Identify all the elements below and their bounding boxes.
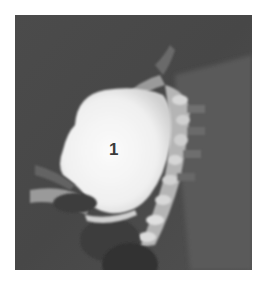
page: 1 bbox=[0, 0, 265, 282]
annotation-label: 1 bbox=[109, 141, 118, 158]
scan-graphics bbox=[15, 15, 252, 270]
mri-scan-image: 1 bbox=[15, 15, 252, 270]
